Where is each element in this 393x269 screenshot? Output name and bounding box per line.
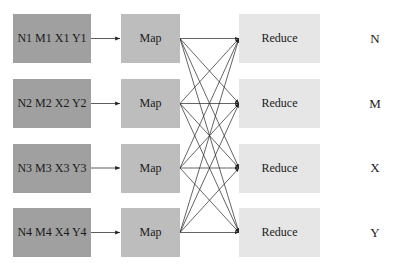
reduce-label: Reduce xyxy=(262,31,298,46)
input-box-4: N4 M4 X4 Y4 xyxy=(13,208,91,257)
map-label: Map xyxy=(140,225,162,240)
map-box-3: Map xyxy=(121,144,180,193)
reduce-box-1: Reduce xyxy=(239,14,320,63)
map-box-1: Map xyxy=(121,14,180,63)
map-label: Map xyxy=(140,31,162,46)
map-box-4: Map xyxy=(121,208,180,257)
input-label: N1 M1 X1 Y1 xyxy=(17,31,86,46)
reduce-label: Reduce xyxy=(262,225,298,240)
input-label: N4 M4 X4 Y4 xyxy=(17,225,86,240)
input-to-map-arrows xyxy=(91,39,120,233)
key-label-x: X xyxy=(360,160,390,176)
map-box-2: Map xyxy=(121,79,180,128)
reduce-label: Reduce xyxy=(262,161,298,176)
map-label: Map xyxy=(140,161,162,176)
map-label: Map xyxy=(140,96,162,111)
input-box-1: N1 M1 X1 Y1 xyxy=(13,14,91,63)
reduce-box-2: Reduce xyxy=(239,79,320,128)
input-label: N3 M3 X3 Y3 xyxy=(17,161,86,176)
reduce-label: Reduce xyxy=(262,96,298,111)
key-label-n: N xyxy=(360,31,390,47)
input-box-2: N2 M2 X2 Y2 xyxy=(13,79,91,128)
map-to-reduce-arrows xyxy=(180,39,239,233)
key-label-m: M xyxy=(360,96,390,112)
reduce-box-4: Reduce xyxy=(239,208,320,257)
key-label-y: Y xyxy=(360,225,390,241)
reduce-box-3: Reduce xyxy=(239,144,320,193)
input-box-3: N3 M3 X3 Y3 xyxy=(13,144,91,193)
input-label: N2 M2 X2 Y2 xyxy=(17,96,86,111)
